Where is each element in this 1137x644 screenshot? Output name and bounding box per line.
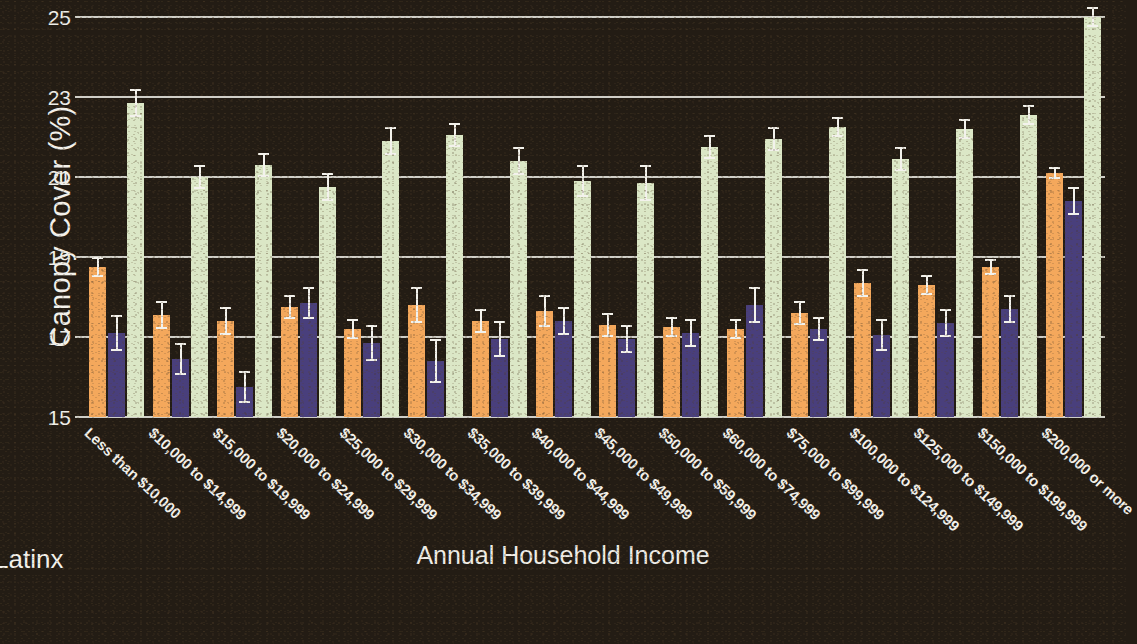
x-axis-tick-label: $150,000 to $199,999 [974,424,1091,534]
x-axis-tick-label: $100,000 to $124,999 [847,424,964,534]
x-axis-title: Annual Household Income [0,541,1126,570]
legend-entry-latinx: Latinx [0,544,63,575]
x-axis-tick-label: $125,000 to $149,999 [911,424,1028,534]
